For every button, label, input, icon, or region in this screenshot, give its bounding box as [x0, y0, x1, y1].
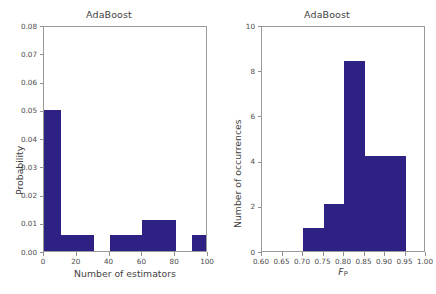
histogram-bar [159, 220, 176, 251]
chart-title-left: AdaBoost [0, 9, 218, 20]
x-tick-mark [261, 252, 262, 256]
y-tick-label: 10 [219, 22, 255, 31]
y-tick-mark [40, 224, 44, 225]
x-axis-label-right-subscript: P [344, 270, 348, 278]
y-tick-mark [258, 162, 262, 163]
x-tick-mark [302, 252, 303, 256]
x-tick-mark [174, 252, 175, 256]
x-tick-mark [384, 252, 385, 256]
y-tick-mark [40, 26, 44, 27]
plot-area-right [261, 26, 425, 252]
y-tick-mark [258, 26, 262, 27]
y-tick-mark [258, 71, 262, 72]
y-tick-label: 0.07 [1, 50, 37, 59]
y-tick-mark [40, 196, 44, 197]
histogram-bar [126, 235, 143, 251]
bar-series-right [262, 27, 424, 251]
x-axis-label-left: Number of estimators [43, 268, 207, 279]
y-tick-mark [40, 83, 44, 84]
y-tick-label: 0.01 [1, 219, 37, 228]
y-tick-label: 0 [219, 248, 255, 257]
x-tick-mark [43, 252, 44, 256]
plot-area-left [43, 26, 207, 252]
histogram-bar [110, 235, 127, 251]
x-tick-mark [425, 252, 426, 256]
y-axis-label-right: Number of occurrences [232, 119, 243, 228]
y-tick-label: 8 [219, 67, 255, 76]
x-tick-mark [109, 252, 110, 256]
x-tick-mark [76, 252, 77, 256]
x-tick-mark [207, 252, 208, 256]
histogram-bar [324, 204, 345, 251]
y-tick-label: 0.08 [1, 22, 37, 31]
histogram-bar [142, 220, 159, 251]
y-tick-mark [258, 116, 262, 117]
y-tick-mark [40, 139, 44, 140]
histogram-bar [77, 235, 94, 251]
y-tick-mark [258, 207, 262, 208]
x-tick-label: 1.00 [405, 257, 436, 266]
y-tick-mark [40, 167, 44, 168]
histogram-bar [303, 228, 324, 251]
histogram-bar [192, 235, 207, 251]
y-axis-label-left: Probability [14, 146, 25, 195]
y-tick-label: 0.00 [1, 248, 37, 257]
y-tick-label: 0.06 [1, 78, 37, 87]
histogram-bar [60, 235, 77, 251]
y-tick-mark [40, 111, 44, 112]
x-tick-mark [323, 252, 324, 256]
x-axis-label-right: FP [261, 266, 425, 278]
histogram-bar [385, 156, 406, 251]
y-tick-label: 0.04 [1, 135, 37, 144]
y-tick-mark [40, 54, 44, 55]
chart-panel-left: AdaBoost 0.000.010.020.030.040.050.060.0… [0, 0, 218, 294]
x-tick-mark [405, 252, 406, 256]
figure-histogram-pair: AdaBoost 0.000.010.020.030.040.050.060.0… [0, 0, 436, 294]
chart-title-right: AdaBoost [218, 9, 436, 20]
histogram-bar [344, 61, 365, 251]
y-tick-label: 0.05 [1, 106, 37, 115]
x-tick-mark [364, 252, 365, 256]
histogram-bar [44, 110, 61, 251]
x-tick-mark [141, 252, 142, 256]
bar-series-left [44, 27, 206, 251]
histogram-bar [365, 156, 386, 251]
x-tick-mark [282, 252, 283, 256]
x-tick-mark [343, 252, 344, 256]
